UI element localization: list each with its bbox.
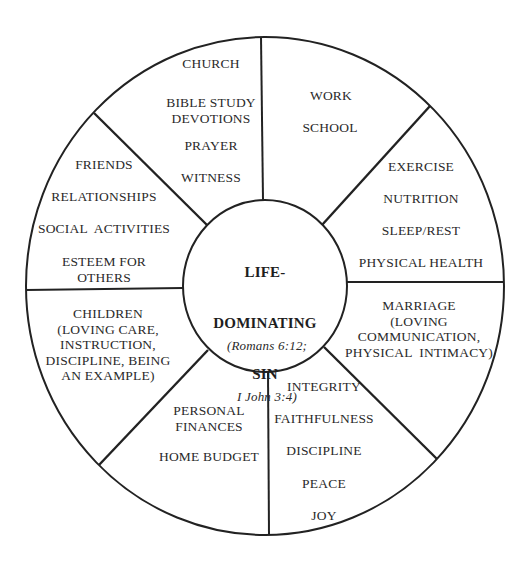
- segment-spiritual-item: WITNESS: [181, 170, 241, 186]
- segment-spiritual-item: BIBLE STUDY DEVOTIONS: [166, 95, 256, 126]
- segment-physical-item: SLEEP/REST: [382, 223, 461, 239]
- segment-spiritual-item: CHURCH: [182, 56, 239, 72]
- segment-character-item: JOY: [311, 508, 336, 524]
- center-title-line: LIFE-: [213, 264, 316, 281]
- segment-vocation-item: SCHOOL: [302, 120, 357, 136]
- segment-physical-item: NUTRITION: [383, 191, 458, 207]
- segment-spiritual-item: PRAYER: [184, 138, 237, 154]
- segment-physical-item: PHYSICAL HEALTH: [359, 255, 484, 271]
- segment-social-item: RELATIONSHIPS: [51, 189, 156, 205]
- segment-social-item: ESTEEM FOR OTHERS: [62, 254, 146, 285]
- segment-character-item: PEACE: [302, 476, 346, 492]
- segment-character-item: DISCIPLINE: [286, 443, 362, 459]
- center-ref-line: (Romans 6:12;: [227, 337, 307, 354]
- segment-finances-item: PERSONAL FINANCES: [173, 403, 244, 434]
- segment-vocation-item: WORK: [310, 88, 352, 104]
- segment-physical-item: EXERCISE: [388, 159, 454, 175]
- segment-social-item: SOCIAL ACTIVITIES: [38, 221, 170, 237]
- segment-character-item: INTEGRITY: [287, 379, 361, 395]
- segment-marriage-item: MARRIAGE (LOVING COMMUNICATION, PHYSICAL…: [345, 298, 493, 360]
- segment-character-item: FAITHFULNESS: [274, 411, 374, 427]
- segment-social-item: FRIENDS: [75, 157, 133, 173]
- segment-finances-item: HOME BUDGET: [159, 449, 259, 465]
- divider-left: [26, 288, 183, 290]
- segment-children-item: CHILDREN (LOVING CARE, INSTRUCTION, DISC…: [46, 306, 171, 384]
- divider-top: [261, 37, 263, 200]
